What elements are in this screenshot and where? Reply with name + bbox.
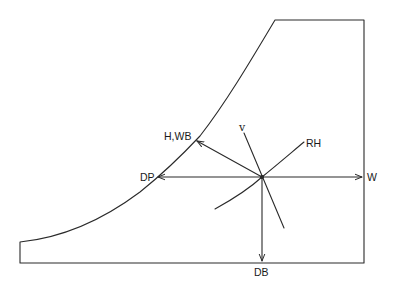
specific-volume-line xyxy=(244,133,284,228)
psychrometric-diagram: H,WB DP v RH W DB xyxy=(0,0,395,289)
label-dew-point: DP xyxy=(140,171,155,183)
label-enthalpy-wetbulb: H,WB xyxy=(164,130,191,142)
label-relative-humidity: RH xyxy=(306,137,321,149)
label-specific-volume: v xyxy=(238,121,246,134)
enthalpy-wetbulb-arrow xyxy=(197,141,262,177)
label-dry-bulb: DB xyxy=(254,266,269,278)
label-humidity-ratio: W xyxy=(367,171,377,183)
